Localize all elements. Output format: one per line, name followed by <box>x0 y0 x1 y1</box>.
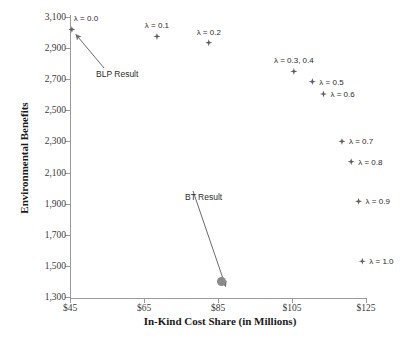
data-point-label: λ = 0.5 <box>319 78 343 87</box>
data-point-label: λ = 0.6 <box>330 90 354 99</box>
x-tick-label: $45 <box>47 303 93 313</box>
data-point-label: λ = 0.8 <box>358 158 382 167</box>
y-tick-label-text: 1,900 <box>26 199 66 209</box>
x-tick-label: $85 <box>195 303 241 313</box>
data-point-label: λ = 0.3, 0.4 <box>274 56 314 65</box>
x-axis-title: In-Kind Cost Share (in Millions) <box>60 315 380 327</box>
y-tick-label: 2,500 <box>0 105 66 115</box>
data-point-label: λ = 0.9 <box>366 197 390 206</box>
data-point-label: λ = 0.7 <box>349 137 373 146</box>
plot-area <box>70 17 366 297</box>
y-tick-label-text: 2,900 <box>26 43 66 53</box>
y-tick-label-text: 3,100 <box>26 12 66 22</box>
scatter-chart: 3,1002,9002,7002,5002,3002,1001,9001,700… <box>0 0 404 337</box>
y-tick-label-text: 2,500 <box>26 105 66 115</box>
data-point-label: λ = 1.0 <box>369 257 393 266</box>
y-tick-label-text: 1,700 <box>26 230 66 240</box>
y-tick-label-text: 2,300 <box>26 136 66 146</box>
y-tick-label-text: 2,700 <box>26 74 66 84</box>
chart-annotation-text: BT Result <box>185 192 222 202</box>
y-tick-label: 1,500 <box>0 261 66 271</box>
y-axis-title: Environmental Benefits <box>18 58 30 258</box>
y-tick-label: 2,100 <box>0 168 66 178</box>
x-tick-label: $65 <box>121 303 167 313</box>
y-tick-label: 2,300 <box>0 136 66 146</box>
chart-annotation-text: BLP Result <box>96 69 138 79</box>
y-tick-label-text: 1,500 <box>26 261 66 271</box>
data-point-label: λ = 0.2 <box>189 28 229 37</box>
y-tick-label: 1,700 <box>0 230 66 240</box>
data-point-label: λ = 0.1 <box>137 21 177 30</box>
data-point-label: λ = 0.0 <box>74 14 98 23</box>
y-tick-label: 1,900 <box>0 199 66 209</box>
y-tick-label: 1,300 <box>0 292 66 302</box>
y-tick-label: 3,100 <box>0 12 66 22</box>
x-tick-label: $105 <box>269 303 315 313</box>
y-tick-label: 2,700 <box>0 74 66 84</box>
y-tick-label: 2,900 <box>0 43 66 53</box>
y-tick-label-text: 2,100 <box>26 168 66 178</box>
x-tick-label: $125 <box>343 303 389 313</box>
y-tick-label-text: 1,300 <box>26 292 66 302</box>
